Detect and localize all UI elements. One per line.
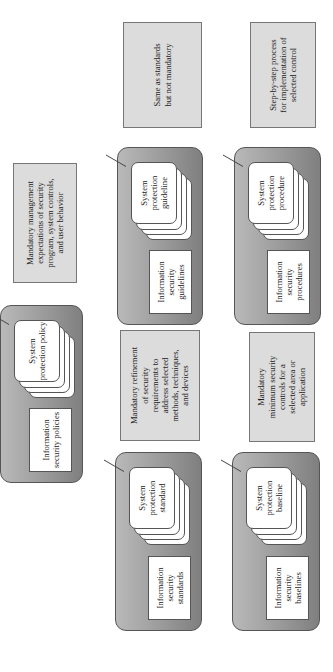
note-line: selected control xyxy=(288,37,298,112)
policies-doc-box: Information security policies xyxy=(29,408,72,472)
procedures-card-label: System protection procedure xyxy=(248,162,294,224)
note-line: expectations of security xyxy=(35,178,45,267)
baselines-note: Mandatory minimum security controls for … xyxy=(249,332,315,442)
note-line: Mandatory management xyxy=(25,178,35,267)
note-line: but not mandatory xyxy=(163,44,173,107)
guidelines-card-label: System protection guideline xyxy=(131,162,177,224)
guidelines-block: Information security guidelines System p… xyxy=(117,147,203,325)
note-line: of security xyxy=(140,347,150,424)
note-line: application xyxy=(297,356,307,419)
note-line: controls for a xyxy=(277,356,287,419)
procedures-card-stack: System protection procedure xyxy=(243,156,309,240)
note-line: requirements to xyxy=(150,347,160,424)
guidelines-card-stack: System protection guideline xyxy=(126,156,192,240)
standards-block: Information security standards System pr… xyxy=(115,452,202,631)
note-line: and user behavior xyxy=(55,178,65,267)
connector-line xyxy=(223,142,243,167)
guidelines-note: Same as standards but not mandatory xyxy=(123,22,202,128)
note-line: minimum security xyxy=(267,356,277,419)
policies-card-stack: System protection policy xyxy=(9,314,75,398)
standards-note: Mandatory refinement of security require… xyxy=(120,330,200,441)
connector-line xyxy=(0,300,9,325)
baselines-card-label: System protection baseline xyxy=(246,467,292,529)
policies-card-label: System protection policy xyxy=(14,320,60,382)
note-line: Mandatory xyxy=(256,356,266,419)
note-line: Step-by-step process xyxy=(268,37,278,112)
security-documents-diagram: Information security policies System pro… xyxy=(0,0,333,672)
standards-doc-box: Information security standards xyxy=(148,556,191,620)
note-line: address selected xyxy=(160,347,170,424)
connector-line xyxy=(106,142,126,167)
procedures-note: Step-by-step process for implementation … xyxy=(250,22,316,128)
policies-note: Mandatory management expectations of sec… xyxy=(13,163,77,283)
note-line: for implementation of xyxy=(278,37,288,112)
procedures-block: Information security procedures System p… xyxy=(234,147,321,325)
note-line: methods, techniques, xyxy=(170,347,180,424)
baselines-block: Information security baselines System pr… xyxy=(232,452,320,631)
guidelines-doc-box: Information security guidelines xyxy=(149,250,192,314)
note-line: program, system controls, xyxy=(45,178,55,267)
standards-card-label: System protection standard xyxy=(129,467,175,529)
baselines-doc-box: Information security baselines xyxy=(266,556,309,620)
procedures-doc-box: Information security procedures xyxy=(267,250,310,314)
standards-card-stack: System protection standard xyxy=(124,461,190,545)
baselines-card-stack: System protection baseline xyxy=(241,461,307,545)
policies-block: Information security policies System pro… xyxy=(0,305,83,483)
note-line: Same as standards xyxy=(152,44,162,107)
note-line: and devices xyxy=(180,347,190,424)
note-line: Mandatory refinement xyxy=(129,347,139,424)
connector-line xyxy=(104,447,124,472)
connector-line xyxy=(221,447,241,472)
note-line: selected area or xyxy=(287,356,297,419)
